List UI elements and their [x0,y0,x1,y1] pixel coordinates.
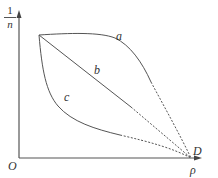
curve-c-solid [39,35,120,135]
curve-c-label: c [64,91,69,103]
diagram-graphics [0,0,218,178]
origin-label: O [8,160,17,172]
diagram: 1 n O ρ D a b c [0,0,218,178]
y-axis-label-denominator: n [4,18,16,30]
x-axis-label: ρ [190,164,196,176]
y-axis-label-numerator: 1 [4,5,16,18]
y-axis-label: 1 n [4,5,16,30]
point-d-label: D [193,145,202,157]
line-b-solid [39,35,131,107]
line-b-dashed [131,107,191,158]
curve-c-dashed [120,135,191,158]
curve-a-label: a [116,30,122,42]
curve-a-dashed [151,82,191,158]
y-axis-arrow-icon [17,10,22,18]
curve-b-label: b [94,64,100,76]
